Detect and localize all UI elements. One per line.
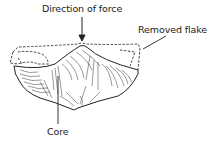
core-label: Core (47, 126, 69, 137)
diagram-canvas (0, 0, 213, 153)
flake-leader (143, 36, 166, 49)
core-shape (14, 45, 138, 110)
removed-flake-label: Removed flake (138, 24, 207, 35)
force-arrow (79, 17, 85, 41)
direction-of-force-label: Direction of force (42, 3, 122, 14)
